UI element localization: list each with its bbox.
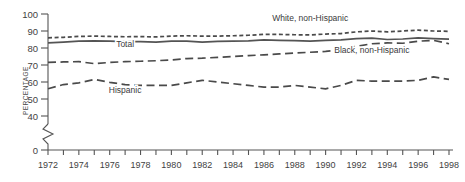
y-tick-label: 100: [22, 9, 38, 20]
x-tick-label: 1972: [38, 160, 58, 170]
x-tick-label: 1986: [254, 160, 274, 170]
x-tick-label: 1974: [69, 160, 89, 170]
y-tick-label: 80: [27, 43, 38, 54]
y-tick-labels: 100 90 80 70 60 50 40 0: [22, 9, 38, 156]
line-chart-canvas: 100 90 80 70 60 50 40 0 1972197419761978…: [0, 0, 465, 182]
x-tick-label: 1976: [100, 160, 120, 170]
series-label: White, non-Hispanic: [272, 13, 349, 23]
x-tick-labels: 1972197419761978198019821984198619881990…: [38, 160, 459, 170]
series-label: Black, non-Hispanic: [334, 45, 410, 55]
y-tick-label: 60: [27, 77, 38, 88]
y-tick-label: 0: [33, 145, 38, 156]
x-tick-label: 1980: [161, 160, 181, 170]
series-label: Hispanic: [109, 85, 142, 95]
chart-figure: PERCENTAGE 100 90 80 70 60 50 40: [0, 0, 465, 182]
y-axis-break-icon: [43, 124, 53, 150]
x-tick-label: 1992: [346, 160, 366, 170]
series-label: Total: [116, 39, 134, 49]
x-tick-label: 1984: [223, 160, 243, 170]
x-tick-label: 1994: [377, 160, 397, 170]
x-tick-label: 1982: [192, 160, 212, 170]
x-tick-label: 1988: [285, 160, 305, 170]
x-tick-label: 1990: [316, 160, 336, 170]
series-line: [48, 30, 449, 38]
series-layer: [48, 30, 449, 89]
y-tick-label: 40: [27, 111, 38, 122]
y-tick-label: 90: [27, 26, 38, 37]
x-tick-label: 1996: [408, 160, 428, 170]
y-tick-label: 70: [27, 60, 38, 71]
x-tick-label: 1978: [131, 160, 151, 170]
x-tick-marks: [48, 150, 449, 155]
series-annotations: White, non-HispanicWhite, non-HispanicTo…: [109, 13, 410, 95]
x-tick-label: 1998: [439, 160, 459, 170]
y-tick-label: 50: [27, 94, 38, 105]
